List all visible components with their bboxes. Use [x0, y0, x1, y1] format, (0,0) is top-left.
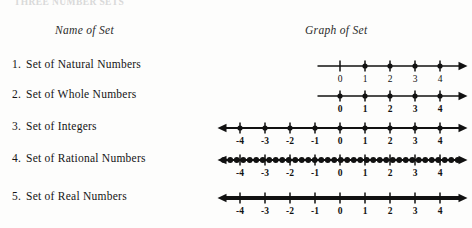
axis-tick-label: -3	[261, 168, 269, 178]
set-row: 4.Set of Rational Numbers-4-3-2-101234	[0, 152, 472, 182]
set-row: 3.Set of Integers-4-3-2-101234	[0, 120, 472, 150]
number-line-point	[287, 125, 292, 130]
axis-tick-label: 0	[338, 104, 343, 114]
number-line-point	[318, 157, 324, 163]
axis-tick-label: 1	[363, 104, 368, 114]
cut-off-header-text: THREE NUMBER SETS	[14, 0, 194, 7]
number-line-point	[305, 157, 311, 163]
set-row: 1.Set of Natural Numbers01234	[0, 58, 472, 88]
axis-tick-label: 1	[363, 74, 368, 84]
worksheet-page: THREE NUMBER SETS Name of Set Graph of S…	[0, 0, 472, 228]
set-row: 2.Set of Whole Numbers01234	[0, 88, 472, 118]
axis-arrow-right	[459, 62, 468, 70]
number-line-point	[383, 157, 389, 163]
number-line-graph: 01234	[0, 88, 472, 118]
number-line-point	[403, 157, 409, 163]
number-line-point	[299, 157, 305, 163]
number-line-point	[253, 157, 259, 163]
number-line-point	[331, 157, 337, 163]
number-line-point	[377, 157, 383, 163]
number-line-point	[292, 157, 298, 163]
number-line-point	[337, 93, 342, 98]
number-line-point	[416, 157, 422, 163]
number-line-point	[396, 157, 402, 163]
axis-tick-label: -4	[236, 168, 244, 178]
number-line-graph: -4-3-2-101234	[0, 120, 472, 150]
axis-tick-label: -4	[236, 206, 244, 216]
number-line-point	[437, 63, 442, 68]
number-line-point	[237, 125, 242, 130]
number-line-svg	[0, 88, 472, 118]
number-line-point	[435, 157, 441, 163]
number-line-svg	[0, 58, 472, 88]
number-line-point	[279, 157, 285, 163]
axis-tick-label: -2	[286, 206, 294, 216]
axis-tick-label: 0	[338, 168, 343, 178]
number-line-point	[362, 125, 367, 130]
number-line-point	[387, 125, 392, 130]
number-line-point	[455, 157, 461, 163]
number-line-point	[370, 157, 376, 163]
axis-tick-label: -2	[286, 168, 294, 178]
number-line-point	[325, 157, 331, 163]
number-line-point	[227, 157, 233, 163]
axis-tick-label: 0	[338, 74, 343, 84]
column-header-graph-of-set: Graph of Set	[305, 24, 367, 36]
number-line-point	[387, 93, 392, 98]
set-row: 5.Set of Real Numbers-4-3-2-101234	[0, 190, 472, 220]
number-line-point	[437, 93, 442, 98]
number-line-point	[448, 157, 454, 163]
axis-tick-label: 0	[338, 206, 343, 216]
number-line-point	[412, 125, 417, 130]
axis-arrow-left	[218, 194, 227, 202]
axis-tick-label: 0	[338, 136, 343, 146]
number-line-point	[262, 125, 267, 130]
number-line-point	[344, 157, 350, 163]
number-line-point	[266, 157, 272, 163]
axis-tick-label: 3	[413, 206, 418, 216]
axis-tick-label: 4	[438, 136, 443, 146]
number-line-point	[412, 63, 417, 68]
number-line-point	[273, 157, 279, 163]
number-line-point	[351, 157, 357, 163]
axis-tick-label: 3	[413, 168, 418, 178]
axis-arrow-right	[459, 92, 468, 100]
axis-tick-label: 4	[438, 104, 443, 114]
number-line-point	[221, 157, 227, 163]
number-line-point	[286, 157, 292, 163]
number-line-point	[247, 157, 253, 163]
number-line-point	[412, 93, 417, 98]
number-line-point	[234, 157, 240, 163]
axis-tick-label: 2	[388, 168, 393, 178]
axis-tick-label: -3	[261, 206, 269, 216]
number-line-point	[337, 125, 342, 130]
axis-tick-label: 3	[413, 104, 418, 114]
axis-tick-label: 4	[438, 168, 443, 178]
axis-tick-label: 2	[388, 136, 393, 146]
axis-tick-label: 2	[388, 104, 393, 114]
axis-tick-label: -1	[311, 168, 319, 178]
number-line-point	[240, 157, 246, 163]
axis-tick-label: 2	[388, 74, 393, 84]
number-line-graph: 01234	[0, 58, 472, 88]
axis-tick-label: 1	[363, 136, 368, 146]
axis-tick-label: -3	[261, 136, 269, 146]
axis-tick-label: 1	[363, 168, 368, 178]
column-header-name-of-set: Name of Set	[55, 24, 114, 36]
number-line-point	[387, 63, 392, 68]
axis-arrow-right	[459, 124, 468, 132]
number-line-point	[338, 157, 344, 163]
axis-tick-label: -1	[311, 136, 319, 146]
number-line-point	[390, 157, 396, 163]
number-line-point	[429, 157, 435, 163]
number-line-point	[357, 157, 363, 163]
axis-tick-label: -4	[236, 136, 244, 146]
number-line-point	[260, 157, 266, 163]
number-line-point	[409, 157, 415, 163]
number-line-point	[437, 125, 442, 130]
number-line-graph: -4-3-2-101234	[0, 152, 472, 182]
axis-arrow-right	[459, 194, 468, 202]
number-line-point	[362, 63, 367, 68]
axis-tick-label: 3	[413, 136, 418, 146]
number-line-point	[442, 157, 448, 163]
